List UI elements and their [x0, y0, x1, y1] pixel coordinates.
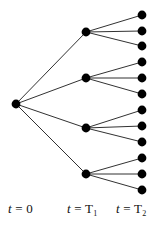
leaf-node	[138, 27, 147, 36]
stage1-node	[82, 170, 91, 179]
leaf-node	[138, 11, 147, 20]
leaf-node	[138, 42, 147, 51]
stage-label-t1-value: T	[85, 201, 93, 216]
stage1-node	[82, 28, 91, 37]
stage-label-t2-subscript: 2	[142, 209, 146, 218]
leaf-node	[138, 170, 147, 179]
stage1-node	[82, 124, 91, 133]
stage-label-t1-equals: =	[71, 201, 85, 216]
scenario-tree-figure: t = 0 t = T1 t = T2	[0, 0, 162, 230]
scenario-tree-graphic	[0, 0, 162, 230]
leaf-node	[138, 58, 147, 67]
leaf-node	[138, 122, 147, 131]
stage-label-t0-equals: =	[12, 201, 26, 216]
leaf-node	[138, 186, 147, 195]
root-node	[12, 100, 21, 109]
stage1-node	[82, 74, 91, 83]
leaf-node	[138, 154, 147, 163]
stage-label-t1: t = T1	[67, 202, 97, 215]
stage-label-t2: t = T2	[116, 202, 146, 215]
leaf-node	[138, 138, 147, 147]
stage-label-t0: t = 0	[8, 202, 33, 215]
stage-label-t2-equals: =	[120, 201, 134, 216]
stage-label-t0-value: 0	[26, 201, 33, 216]
stage-label-t1-subscript: 1	[93, 209, 97, 218]
leaf-node	[138, 106, 147, 115]
stage-label-t2-value: T	[134, 201, 142, 216]
figure-background	[0, 0, 162, 230]
leaf-node	[138, 74, 147, 83]
stage-label-row: t = 0 t = T1 t = T2	[0, 198, 162, 228]
leaf-node	[138, 90, 147, 99]
